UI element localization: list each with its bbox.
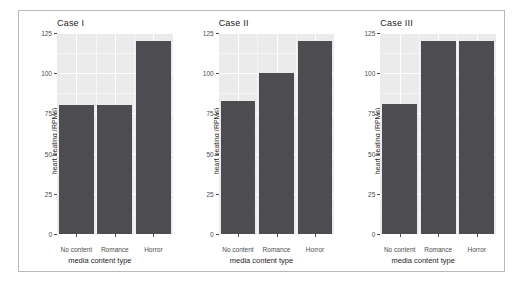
facet-panel-2: Case IIheart beating (RPMs)media content… [181, 11, 343, 271]
bars-layer [380, 33, 496, 234]
bar-romance [97, 105, 132, 234]
x-axis-label: media content type [342, 256, 504, 265]
bar-horror [136, 41, 171, 234]
x-tick-label: No content [384, 246, 415, 253]
bar-no-content [221, 101, 256, 234]
y-tick-mark [377, 234, 380, 235]
y-tick-mark [54, 154, 57, 155]
y-tick-mark [377, 154, 380, 155]
y-tick-label: 125 [350, 30, 375, 37]
y-tick-mark [54, 234, 57, 235]
y-tick-label: 100 [27, 70, 52, 77]
plot-area [380, 33, 496, 234]
y-tick-mark [216, 194, 219, 195]
y-tick-mark [216, 154, 219, 155]
y-tick-mark [54, 33, 57, 34]
bar-romance [259, 73, 294, 234]
y-tick-label: 0 [350, 231, 375, 238]
x-axis-label: media content type [19, 256, 181, 265]
x-tick-mark [238, 234, 239, 237]
bar-no-content [382, 104, 417, 234]
x-tick-mark [315, 234, 316, 237]
plot-area [57, 33, 173, 234]
facet-panel-row: Case Iheart beating (RPMs)media content … [19, 11, 504, 271]
y-tick-mark [377, 194, 380, 195]
y-tick-mark [54, 73, 57, 74]
y-tick-mark [54, 113, 57, 114]
facet-title: Case II [219, 18, 249, 28]
x-tick-mark [153, 234, 154, 237]
y-tick-label: 50 [27, 150, 52, 157]
y-tick-label: 0 [27, 231, 52, 238]
bar-horror [298, 41, 333, 234]
y-tick-label: 25 [189, 190, 214, 197]
figure-frame: Case Iheart beating (RPMs)media content … [18, 10, 505, 272]
y-tick-mark [377, 113, 380, 114]
y-tick-mark [377, 73, 380, 74]
y-tick-mark [216, 73, 219, 74]
x-tick-label: Horror [144, 246, 162, 253]
facet-panel-3: Case IIIheart beating (RPMs)media conten… [342, 11, 504, 271]
facet-panel-1: Case Iheart beating (RPMs)media content … [19, 11, 181, 271]
bar-horror [459, 41, 494, 234]
x-tick-mark [115, 234, 116, 237]
x-tick-mark [76, 234, 77, 237]
y-tick-label: 25 [350, 190, 375, 197]
x-tick-label: No content [61, 246, 92, 253]
facet-title: Case I [57, 18, 84, 28]
bars-layer [57, 33, 173, 234]
bar-romance [421, 41, 456, 234]
y-tick-mark [216, 113, 219, 114]
y-tick-mark [54, 194, 57, 195]
facet-title: Case III [380, 18, 413, 28]
y-tick-label: 75 [27, 110, 52, 117]
x-axis-label: media content type [181, 256, 343, 265]
bars-layer [219, 33, 335, 234]
plot-area [219, 33, 335, 234]
y-tick-label: 100 [189, 70, 214, 77]
x-tick-label: Horror [306, 246, 324, 253]
y-tick-label: 75 [350, 110, 375, 117]
x-tick-mark [277, 234, 278, 237]
y-tick-mark [216, 33, 219, 34]
y-tick-label: 0 [189, 231, 214, 238]
y-tick-label: 50 [189, 150, 214, 157]
x-tick-label: No content [222, 246, 253, 253]
y-tick-label: 75 [189, 110, 214, 117]
y-tick-label: 125 [189, 30, 214, 37]
x-tick-label: Romance [424, 246, 452, 253]
y-tick-mark [216, 234, 219, 235]
y-tick-label: 50 [350, 150, 375, 157]
x-tick-label: Romance [101, 246, 129, 253]
x-tick-mark [438, 234, 439, 237]
x-tick-label: Horror [468, 246, 486, 253]
x-tick-mark [400, 234, 401, 237]
x-tick-label: Romance [263, 246, 291, 253]
y-tick-label: 100 [350, 70, 375, 77]
y-tick-label: 125 [27, 30, 52, 37]
y-tick-label: 25 [27, 190, 52, 197]
x-tick-mark [477, 234, 478, 237]
bar-no-content [59, 105, 94, 234]
y-tick-mark [377, 33, 380, 34]
